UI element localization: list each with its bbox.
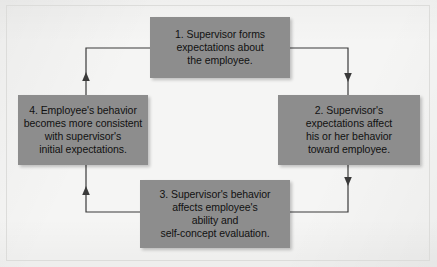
connector-2-to-3 — [290, 165, 352, 212]
flow-node-3-line: ability and — [192, 214, 239, 227]
flow-node-3-line: affects employee's — [172, 201, 258, 214]
flow-node-3: 3. Supervisor's behavior affects employe… — [140, 180, 290, 248]
connector-4-to-1 — [82, 48, 150, 95]
flow-node-3-line: 3. Supervisor's behavior — [159, 188, 270, 201]
diagram-canvas: 1. Supervisor forms expectations about t… — [0, 0, 437, 267]
flow-node-4: 4. Employee's behavior becomes more cons… — [18, 95, 148, 165]
connector-3-to-4 — [82, 165, 140, 212]
flow-node-2-line: expectations affect — [306, 117, 392, 130]
flow-node-2: 2. Supervisor's expectations affect his … — [278, 95, 420, 165]
flow-node-1-line: the employee. — [187, 54, 252, 67]
flow-node-4-line: becomes more consistent — [24, 117, 143, 130]
connector-1-to-2 — [290, 48, 352, 95]
flow-node-4-line: initial expectations. — [39, 143, 127, 156]
flow-node-1: 1. Supervisor forms expectations about t… — [150, 17, 290, 78]
flow-node-1-line: expectations about — [176, 41, 263, 54]
flow-node-2-line: 2. Supervisor's — [315, 104, 383, 117]
flow-node-3-line: self-concept evaluation. — [160, 227, 269, 240]
flow-node-1-line: 1. Supervisor forms — [175, 28, 265, 41]
flow-node-4-line: 4. Employee's behavior — [29, 104, 137, 117]
flow-node-2-line: his or her behavior — [306, 130, 392, 143]
flow-node-4-line: with supervisor's — [45, 130, 121, 143]
flow-node-2-line: toward employee. — [308, 143, 390, 156]
